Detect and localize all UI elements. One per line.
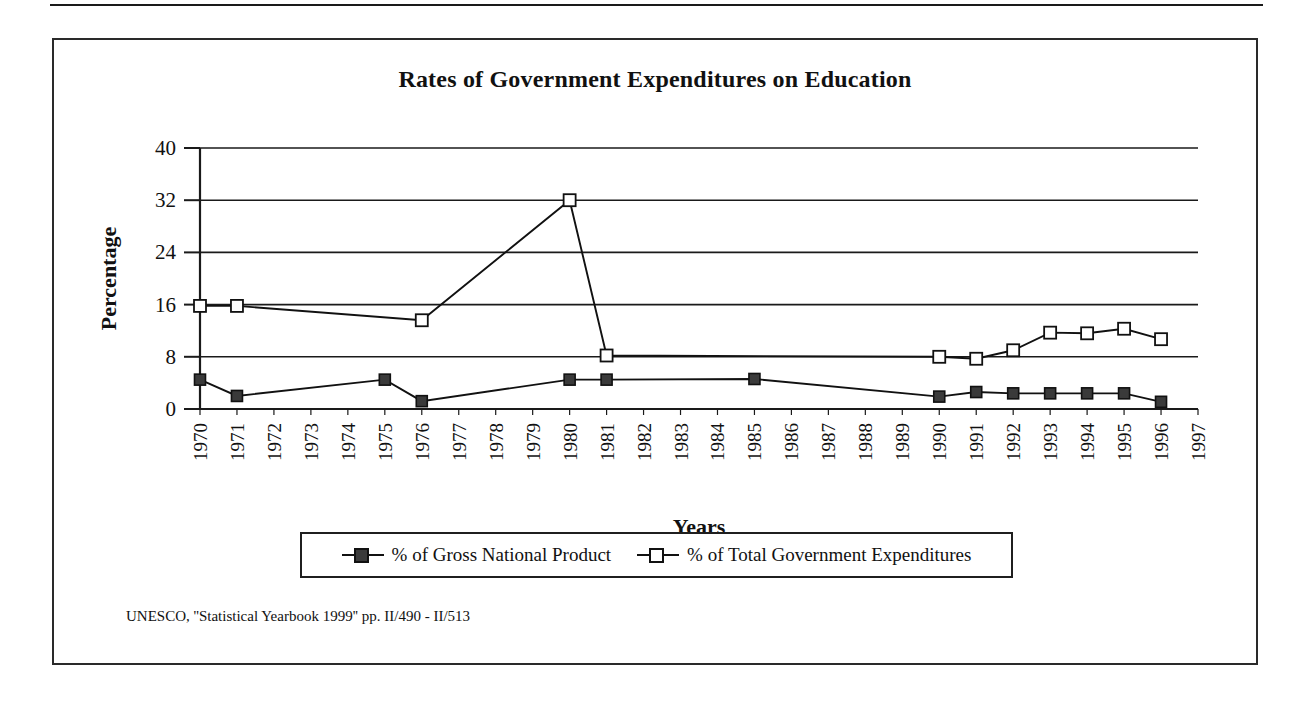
x-tick-label: 1984 [707,423,728,462]
open-square-marker [601,349,613,361]
open-square-marker [231,300,243,312]
page-top-rule [50,4,1263,6]
legend-entry-total-expenditures: % of Total Government Expenditures [637,544,971,566]
y-tick-label: 32 [155,188,176,212]
x-tick-label: 1987 [818,423,839,461]
x-tick-label: 1980 [560,423,581,461]
open-square-marker [970,353,982,365]
open-square-marker [933,351,945,363]
x-tick-label: 1986 [781,423,802,461]
x-tick-label: 1978 [486,423,507,461]
x-tick-label: 1970 [190,423,211,461]
filled-square-marker [934,391,945,402]
x-tick-label: 1993 [1040,423,1061,461]
x-tick-label: 1989 [892,423,913,461]
open-square-icon [637,547,679,563]
x-tick-label: 1973 [301,423,322,461]
filled-square-marker [1045,388,1056,399]
x-tick-label: 1991 [966,423,987,461]
filled-square-marker [231,390,242,401]
x-tick-label: 1974 [338,423,359,462]
open-square-marker [564,194,576,206]
y-tick-label: 16 [155,293,176,317]
series-line-2 [200,200,1161,359]
x-tick-label: 1994 [1077,423,1098,462]
figure-page: Rates of Government Expenditures on Educ… [0,0,1307,707]
x-tick-label: 1971 [227,423,248,461]
x-tick-label: 1979 [523,423,544,461]
x-tick-label: 1983 [671,423,692,461]
x-tick-label: 1995 [1114,423,1135,461]
filled-square-marker [1008,388,1019,399]
x-tick-label: 1988 [855,423,876,461]
filled-square-marker [971,387,982,398]
x-tick-label: 1972 [264,423,285,461]
filled-square-marker [1119,388,1130,399]
open-square-marker [1118,323,1130,335]
x-tick-label: 1990 [929,423,950,461]
open-square-marker [1007,344,1019,356]
legend-entry-gnp: % of Gross National Product [342,544,612,566]
x-tick-label: 1997 [1188,423,1209,461]
y-tick-label: 8 [166,345,177,369]
filled-square-marker [379,374,390,385]
x-tick-label: 1976 [412,423,433,461]
x-tick-label: 1985 [744,423,765,461]
x-tick-label: 1996 [1151,423,1172,461]
open-square-marker [194,300,206,312]
filled-square-marker [1156,396,1167,407]
open-square-marker [416,314,428,326]
open-square-marker [1044,327,1056,339]
figure-frame: Rates of Government Expenditures on Educ… [52,38,1258,665]
x-tick-label: 1982 [634,423,655,461]
open-square-marker [1155,333,1167,345]
y-tick-label: 40 [155,136,176,160]
y-axis-title: Percentage [96,227,121,331]
chart-legend: % of Gross National Product % of Total G… [300,532,1013,578]
y-tick-label: 0 [166,397,177,421]
y-tick-label: 24 [155,240,177,264]
filled-square-marker [416,396,427,407]
x-tick-label: 1992 [1003,423,1024,461]
filled-square-marker [195,374,206,385]
source-note: UNESCO, ''Statistical Yearbook 1999'' pp… [126,608,470,625]
open-square-marker [1081,327,1093,339]
legend-label-total-expenditures: % of Total Government Expenditures [687,544,971,566]
x-tick-label: 1977 [449,423,470,461]
filled-square-icon [342,547,384,563]
filled-square-marker [601,374,612,385]
x-tick-label: 1981 [597,423,618,461]
filled-square-marker [749,373,760,384]
x-tick-label: 1975 [375,423,396,461]
legend-label-gnp: % of Gross National Product [392,544,612,566]
filled-square-marker [564,374,575,385]
filled-square-marker [1082,388,1093,399]
